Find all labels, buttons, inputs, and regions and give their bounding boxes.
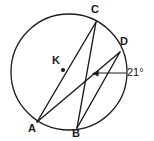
circle-outline [11, 14, 127, 130]
circle-geometry-figure: C D K 21° A B [0, 0, 154, 141]
label-point-a: A [28, 123, 36, 134]
label-point-d: D [120, 36, 128, 47]
label-angle-21deg: 21° [127, 67, 144, 78]
chord-ad [37, 52, 120, 122]
center-point-dot [61, 68, 65, 72]
label-point-b: B [72, 128, 80, 139]
label-point-c: C [91, 4, 99, 15]
label-center-k: K [52, 55, 60, 66]
